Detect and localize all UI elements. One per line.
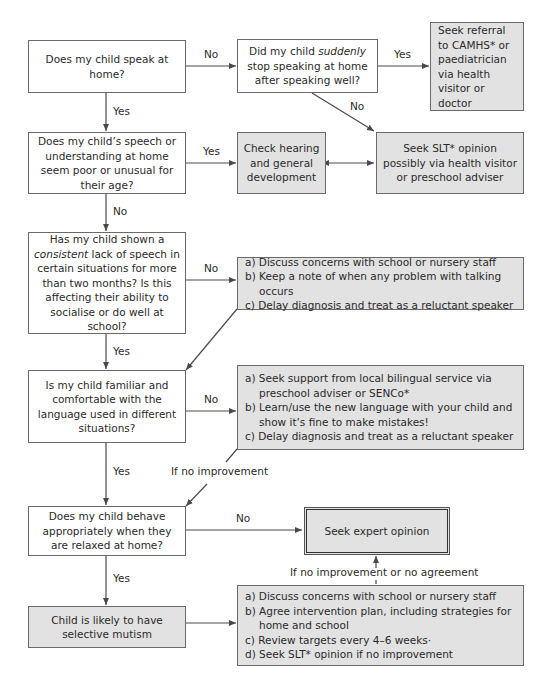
edge-label-yes: Yes (113, 105, 130, 117)
action-item: c) Delay diagnosis and treat as a reluct… (245, 298, 519, 313)
edge-label-yes: Yes (113, 345, 130, 357)
edge-label-no-improvement-or-agreement: If no improvement or no agreement (290, 566, 478, 578)
edge-label-no: No (204, 262, 218, 274)
action-item: c) Review targets every 4–6 weeks· (245, 633, 519, 648)
actions-intervention: a) Discuss concerns with school or nurse… (237, 585, 524, 666)
edge-label-no: No (204, 48, 218, 60)
actions-bilingual: a) Seek support from local bilingual ser… (237, 365, 524, 450)
node-text: Has my child shown a consistent lack of … (33, 232, 181, 334)
action-list: a) Seek support from local bilingual ser… (245, 371, 519, 444)
question-consistent-lack: Has my child shown a consistent lack of … (28, 232, 186, 334)
edge-label-no: No (350, 100, 364, 112)
edge-label-yes: Yes (113, 465, 130, 477)
node-text: Does my child behave appropriately when … (33, 509, 181, 553)
edge-label-yes: Yes (394, 48, 411, 60)
node-text: Child is likely to have selective mutism (33, 613, 181, 642)
actions-reluctant-speaker: a) Discuss concerns with school or nurse… (237, 257, 524, 310)
edge-label-yes: Yes (203, 145, 220, 157)
node-text: Did my child suddenly stop speaking at h… (242, 44, 373, 88)
action-item: b) Keep a note of when any problem with … (245, 269, 519, 298)
edge-label-if-no-improvement: If no improvement (171, 465, 268, 477)
node-text: Check hearing and general development (242, 141, 321, 185)
action-list: a) Discuss concerns with school or nurse… (245, 589, 519, 662)
question-suddenly-stopped: Did my child suddenly stop speaking at h… (237, 39, 378, 93)
action-item: a) Discuss concerns with school or nurse… (245, 589, 519, 604)
node-text: Seek expert opinion (324, 524, 429, 539)
action-seek-expert: Seek expert opinion (304, 507, 450, 555)
action-check-hearing: Check hearing and general development (237, 132, 326, 194)
node-text: Does my child speak at home? (33, 52, 181, 81)
action-item: c) Delay diagnosis and treat as a reluct… (245, 429, 519, 444)
action-seek-slt: Seek SLT* opinion possibly via health vi… (376, 132, 524, 194)
edge-label-no: No (236, 512, 250, 524)
node-text: Is my child familiar and comfortable wit… (33, 378, 181, 436)
action-item: a) Discuss concerns with school or nurse… (245, 255, 519, 270)
action-item: a) Seek support from local bilingual ser… (245, 371, 519, 400)
question-language-familiar: Is my child familiar and comfortable wit… (28, 370, 186, 443)
action-item: b) Agree intervention plan, including st… (245, 604, 519, 633)
action-list: a) Discuss concerns with school or nurse… (245, 255, 519, 313)
action-camhs-referral: Seek referral to CAMHS* or paediatrician… (430, 22, 524, 111)
result-selective-mutism: Child is likely to have selective mutism (28, 606, 186, 648)
node-text: Seek referral to CAMHS* or paediatrician… (438, 23, 519, 110)
edge-label-yes: Yes (113, 572, 130, 584)
action-item: b) Learn/use the new language with your … (245, 400, 519, 429)
node-text: Does my child’s speech or understanding … (33, 134, 181, 192)
question-behave-relaxed: Does my child behave appropriately when … (28, 506, 186, 556)
node-text: Seek SLT* opinion possibly via health vi… (381, 141, 519, 185)
action-item: d) Seek SLT* opinion if no improvement (245, 647, 519, 662)
edge-label-no: No (204, 393, 218, 405)
edge-label-no: No (113, 205, 127, 217)
question-speech-poor: Does my child’s speech or understanding … (28, 132, 186, 194)
question-speak-at-home: Does my child speak at home? (28, 40, 186, 93)
